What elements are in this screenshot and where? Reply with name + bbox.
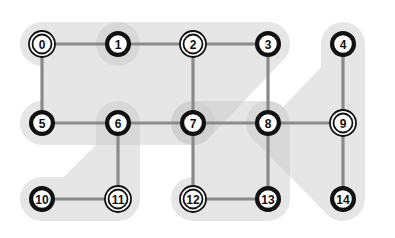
graph-svg: 01234567891011121314	[0, 0, 395, 238]
node-label-6: 6	[115, 117, 122, 131]
graph-node-5[interactable]: 5	[31, 112, 53, 134]
node-label-13: 13	[261, 193, 275, 207]
node-label-12: 12	[186, 193, 200, 207]
node-label-14: 14	[336, 193, 350, 207]
graph-node-10[interactable]: 10	[31, 188, 53, 210]
graph-node-6[interactable]: 6	[107, 112, 129, 134]
node-label-1: 1	[115, 38, 122, 52]
graph-canvas: 01234567891011121314	[0, 0, 395, 238]
graph-node-14[interactable]: 14	[332, 188, 354, 210]
graph-node-13[interactable]: 13	[257, 188, 279, 210]
node-label-3: 3	[265, 38, 272, 52]
node-label-11: 11	[112, 193, 125, 207]
node-label-8: 8	[265, 117, 272, 131]
node-label-2: 2	[190, 38, 197, 52]
node-label-5: 5	[39, 117, 46, 131]
node-label-10: 10	[35, 193, 49, 207]
graph-node-1[interactable]: 1	[107, 33, 129, 55]
graph-node-9[interactable]: 9	[330, 110, 356, 136]
graph-node-3[interactable]: 3	[257, 33, 279, 55]
graph-node-12[interactable]: 12	[180, 186, 206, 212]
graph-node-4[interactable]: 4	[332, 33, 354, 55]
graph-node-8[interactable]: 8	[257, 112, 279, 134]
node-label-0: 0	[39, 38, 46, 52]
graph-node-2[interactable]: 2	[180, 31, 206, 57]
node-label-7: 7	[190, 117, 197, 131]
graph-node-0[interactable]: 0	[29, 31, 55, 57]
node-label-4: 4	[340, 38, 347, 52]
graph-node-11[interactable]: 11	[105, 186, 131, 212]
graph-node-7[interactable]: 7	[182, 112, 204, 134]
node-label-9: 9	[340, 117, 347, 131]
